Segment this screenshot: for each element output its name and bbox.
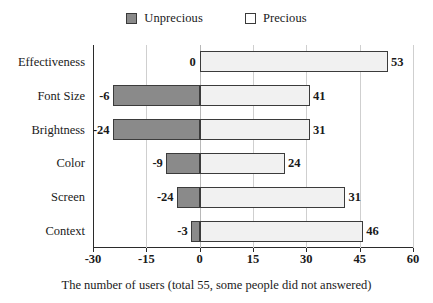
- bar-precious: 24: [200, 153, 285, 174]
- bar-value-unprecious: -9: [152, 156, 162, 171]
- bar-value-precious: 31: [313, 122, 326, 137]
- x-tick-label: -30: [85, 252, 102, 267]
- bar-value-unprecious: -3: [177, 224, 187, 239]
- bar-unprecious: -3: [191, 221, 200, 242]
- x-tick-label: 15: [247, 252, 260, 267]
- bar-unprecious: -9: [166, 153, 200, 174]
- bar-row: Context-346: [93, 221, 413, 242]
- bar-precious: 31: [200, 187, 346, 208]
- legend-label-unprecious: Unprecious: [144, 12, 203, 25]
- bar-value-unprecious: -6: [99, 88, 109, 103]
- gridline-0: [200, 45, 201, 248]
- bar-row: Color-924: [93, 153, 413, 174]
- category-label: Font Size: [37, 88, 85, 103]
- chart-legend: Unprecious Precious: [0, 12, 433, 25]
- bar-value-precious: 53: [391, 54, 404, 69]
- gridline-30: [306, 45, 307, 248]
- bar-value-precious: 24: [288, 156, 301, 171]
- legend-swatch-precious: [245, 13, 256, 24]
- x-tick-label: 60: [407, 252, 420, 267]
- plot-area: -30-15015304560 Effectiveness053Font Siz…: [93, 45, 413, 248]
- x-tick-label: 0: [197, 252, 203, 267]
- category-label: Effectiveness: [18, 54, 85, 69]
- legend-entry-precious: Precious: [245, 12, 307, 25]
- bar-value-precious: 46: [366, 224, 379, 239]
- bar-precious: 46: [200, 221, 364, 242]
- bar-precious: 41: [200, 85, 310, 106]
- bar-precious: 31: [200, 119, 310, 140]
- bar-value-precious: 31: [348, 190, 361, 205]
- x-axis-caption: The number of users (total 55, some peop…: [0, 278, 433, 293]
- bar-row: Brightness-2431: [93, 119, 413, 140]
- legend-entry-unprecious: Unprecious: [126, 12, 203, 25]
- x-tick-label: 45: [353, 252, 366, 267]
- gridline-45: [360, 45, 361, 248]
- bar-unprecious: -6: [113, 85, 200, 106]
- bar-value-unprecious: 0: [189, 54, 195, 69]
- gridline-60: [413, 45, 414, 248]
- bar-row: Screen-2431: [93, 187, 413, 208]
- bar-value-unprecious: -24: [93, 122, 110, 137]
- x-tick-label: 30: [300, 252, 313, 267]
- bar-value-precious: 41: [313, 88, 326, 103]
- x-tick-label: -15: [138, 252, 155, 267]
- category-label: Screen: [51, 190, 85, 205]
- bar-unprecious: -24: [177, 187, 200, 208]
- bar-row: Effectiveness053: [93, 51, 413, 72]
- category-label: Context: [45, 224, 85, 239]
- legend-swatch-unprecious: [126, 13, 137, 24]
- gridline-15: [253, 45, 254, 248]
- y-axis-line: [93, 45, 94, 248]
- gridline--15: [146, 45, 147, 248]
- bar-unprecious: -24: [113, 119, 200, 140]
- category-label: Brightness: [32, 122, 85, 137]
- category-label: Color: [57, 156, 85, 171]
- bar-chart: Unprecious Precious -30-15015304560 Effe…: [0, 0, 433, 303]
- legend-label-precious: Precious: [263, 12, 307, 25]
- bar-row: Font Size-641: [93, 85, 413, 106]
- bar-value-unprecious: -24: [157, 190, 174, 205]
- bar-precious: 53: [200, 51, 388, 72]
